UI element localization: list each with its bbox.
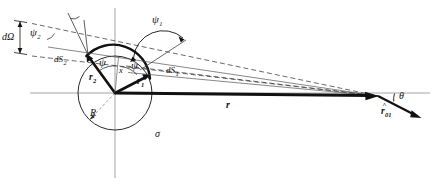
label-psi-left: ψ (99, 56, 106, 68)
label-psi-right: ψ (131, 59, 138, 71)
label-dS2: dS2 (54, 54, 68, 66)
label-dS1: dS1 (166, 65, 179, 77)
psi2-triangle-left-leg (68, 13, 88, 55)
dS1-normal-line (140, 40, 186, 70)
label-sigma: σ (155, 128, 161, 139)
label-R: R (89, 107, 96, 118)
vector-rhat-arrowhead (410, 110, 421, 118)
domega-arrowhead-up (18, 22, 23, 28)
label-rhat: r01 (381, 106, 392, 118)
label-vector-r: r (226, 99, 230, 110)
scattering-geometry-diagram: dΩ ψ2 ψ1 dS2 dS1 ψ ψ r2 r1 x R σ r θ ^ r… (0, 0, 440, 184)
domega-tick-top (14, 21, 27, 23)
label-d-omega: dΩ (2, 31, 14, 42)
domega-arrowhead-down (18, 48, 23, 54)
label-theta: θ (399, 90, 404, 101)
label-vector-r2: r2 (89, 72, 97, 84)
psi2-angle-arc (47, 34, 55, 40)
theta-angle-arc (394, 94, 395, 102)
label-psi-2: ψ2 (30, 26, 41, 40)
ray-through-dS2 (48, 47, 378, 96)
figure-canvas: dΩ ψ2 ψ1 dS2 dS1 ψ ψ r2 r1 x R σ r θ ^ r… (0, 0, 440, 184)
ray-through-dS1 (126, 66, 378, 96)
label-psi-1: ψ1 (152, 13, 163, 27)
psi2-triangle-right-leg (84, 20, 88, 55)
ray-upper-dashed (32, 24, 378, 97)
psi2-triangle-apex-arc (71, 17, 80, 19)
x-line (115, 57, 119, 93)
domega-tick-bottom (14, 53, 27, 55)
label-x: x (118, 65, 123, 75)
